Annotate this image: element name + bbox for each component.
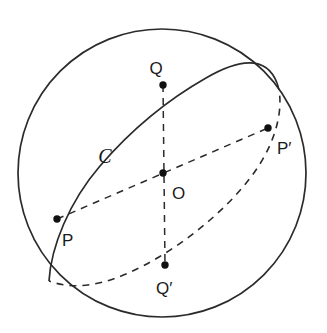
point-p-marker <box>53 215 60 222</box>
point-pprime-marker <box>264 124 271 131</box>
figure-root: Q P′ O P Q′ C <box>0 0 327 333</box>
point-o-marker <box>159 169 166 176</box>
point-label-qprime: Q′ <box>156 279 172 298</box>
point-label-p: P <box>62 231 73 250</box>
point-qprime-marker <box>161 261 168 268</box>
great-circle-label-c: C <box>98 145 112 167</box>
point-label-o: O <box>172 184 185 203</box>
sphere-great-circle-diagram: Q P′ O P Q′ C <box>0 0 327 333</box>
point-label-q: Q <box>149 59 162 78</box>
point-q-marker <box>159 81 166 88</box>
point-label-pprime: P′ <box>277 139 292 158</box>
